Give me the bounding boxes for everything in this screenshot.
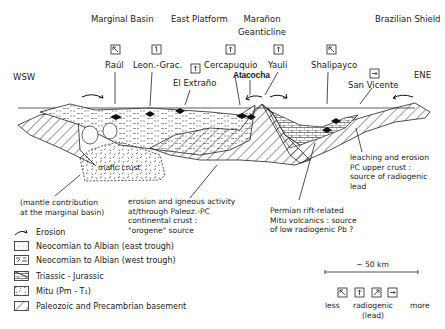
- scale-label: ~ 50 km: [345, 260, 400, 270]
- legend-label: Erosion: [36, 228, 65, 237]
- brick-swatch-icon: [14, 271, 29, 281]
- legend-label: Triassic - Jurassic: [36, 272, 104, 281]
- scale-lead-label: (lead): [348, 311, 398, 321]
- intrusion-2: [103, 123, 117, 139]
- mantle-annotation: (mantle contribution at the marginal bas…: [20, 198, 104, 217]
- locality-shalipayco: Shalipayco: [311, 60, 357, 70]
- locality-yauli: Yauli: [268, 60, 287, 70]
- intrusion-1: [82, 126, 98, 144]
- direction-east: ENE: [414, 70, 431, 80]
- region-marginal-basin: Marginal Basin: [91, 14, 154, 24]
- locality-san-vicente: San Vicente: [348, 80, 399, 90]
- erosion-arrow-icon: [14, 227, 29, 237]
- legend-neocomian-west: Neocomian to Albian (west trough): [14, 255, 176, 265]
- permian-annotation: Permian rift-related Mitu volcanics : so…: [270, 206, 357, 235]
- legend-label: Neocomian to Albian (east trough): [36, 242, 174, 251]
- locality-el-extrano: El Extraño: [173, 78, 216, 88]
- legend-neocomian-east: Neocomian to Albian (east trough): [14, 241, 174, 251]
- scale-radiogenic-label: radiogenic: [348, 301, 398, 311]
- region-geanticline: Geanticline: [232, 27, 292, 37]
- legend-label: Neocomian to Albian (west trough): [36, 256, 176, 265]
- scale-less-label: less: [325, 301, 340, 311]
- locality-raul: Raúl: [105, 60, 124, 70]
- locality-atacocha: Atacocha: [233, 70, 270, 80]
- dotted-swatch-icon: [14, 241, 29, 251]
- locality-leon-grac: Leon.-Grac.: [133, 60, 182, 70]
- legend-label: Mitu (Pm - T₁): [36, 287, 91, 296]
- locality-cercapuquio: Cercapuquio: [204, 60, 257, 70]
- region-east-platform: East Platform: [171, 14, 228, 24]
- volcanic-swatch-icon: [14, 286, 29, 296]
- scale-bar: [325, 270, 418, 274]
- erosion-igneous-annotation: erosion and igneous activity at/through …: [128, 197, 235, 235]
- direction-west: WSW: [13, 72, 35, 82]
- hatch-swatch-icon: [14, 301, 29, 311]
- layered-swatch-icon: [14, 255, 29, 265]
- scale-more-label: more: [410, 301, 430, 311]
- mafic-crust-label: mafic crust: [98, 163, 140, 173]
- legend-label: Paleozoic and Precambrian basement: [36, 302, 186, 311]
- legend-basement: Paleozoic and Precambrian basement: [14, 301, 186, 311]
- leaching-annotation: leaching and erosion PC upper crust : so…: [350, 153, 429, 191]
- region-brazilian-shield: Brazilian Shield: [375, 14, 441, 24]
- legend-triassic-jurassic: Triassic - Jurassic: [14, 271, 104, 281]
- legend-mitu: Mitu (Pm - T₁): [14, 286, 91, 296]
- region-maranon: Marañon: [237, 14, 287, 24]
- legend-erosion: Erosion: [14, 227, 65, 237]
